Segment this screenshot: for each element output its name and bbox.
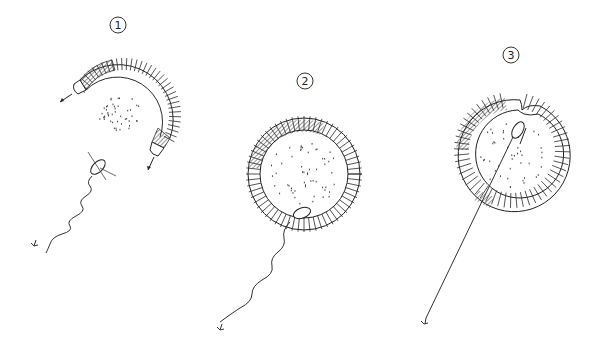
fish-school	[99, 97, 139, 131]
stage-3: 3	[421, 47, 570, 324]
stage-1: 1	[31, 17, 181, 253]
anchor-icon	[31, 240, 38, 246]
fish-school	[271, 143, 335, 204]
hatched-section	[456, 98, 507, 150]
stage-2: 2	[217, 73, 362, 330]
hatched-section	[80, 60, 170, 148]
skiff-icon	[88, 152, 116, 180]
anchor-line	[220, 222, 290, 322]
boat-icon	[60, 80, 86, 102]
purse-seine-diagram: 1	[0, 0, 594, 358]
svg-text:3: 3	[508, 49, 515, 62]
stage-label-2: 2	[297, 73, 313, 89]
stage-label-3: 3	[503, 47, 519, 63]
svg-text:2: 2	[302, 75, 309, 88]
anchor-line	[46, 176, 92, 253]
anchor-icon	[217, 324, 224, 330]
boat-icon	[147, 142, 164, 170]
net-ring-inner	[260, 130, 348, 218]
svg-text:1: 1	[115, 19, 122, 32]
boat-icon	[509, 120, 527, 141]
anchor-icon	[421, 318, 428, 324]
stage-label-1: 1	[110, 17, 126, 33]
